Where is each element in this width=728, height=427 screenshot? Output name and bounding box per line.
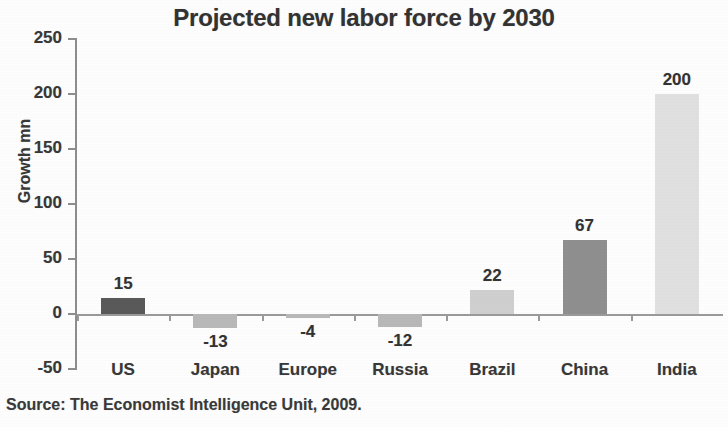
x-tick-mark — [77, 316, 79, 321]
x-tick-mark — [631, 316, 633, 321]
chart-figure: Projected new labor force by 2030 Growth… — [0, 0, 728, 427]
bar-value-label-russia: -12 — [360, 331, 440, 351]
chart-title: Projected new labor force by 2030 — [0, 4, 728, 32]
bar-japan — [193, 314, 237, 328]
y-tick-label: 100 — [2, 193, 62, 213]
bar-value-label-us: 15 — [83, 274, 163, 294]
bar-value-label-europe: -4 — [268, 322, 348, 342]
y-tick-mark — [68, 148, 77, 150]
category-label-india: India — [627, 360, 727, 380]
bar-china — [563, 240, 607, 314]
category-label-us: US — [73, 360, 173, 380]
y-tick-mark — [68, 313, 77, 315]
bar-europe — [286, 314, 330, 318]
y-tick-mark — [68, 203, 77, 205]
category-label-europe: Europe — [258, 360, 358, 380]
x-tick-mark — [169, 316, 171, 321]
bar-value-label-china: 67 — [545, 216, 625, 236]
category-label-brazil: Brazil — [442, 360, 542, 380]
x-tick-mark — [446, 316, 448, 321]
y-tick-label: 250 — [2, 28, 62, 48]
y-tick-label: 200 — [2, 83, 62, 103]
category-label-russia: Russia — [350, 360, 450, 380]
category-label-japan: Japan — [165, 360, 265, 380]
bar-us — [101, 298, 145, 315]
y-tick-mark — [68, 258, 77, 260]
y-tick-mark — [68, 38, 77, 40]
bar-value-label-india: 200 — [637, 70, 717, 90]
y-tick-label: 0 — [2, 303, 62, 323]
y-tick-label: 50 — [2, 248, 62, 268]
bar-russia — [378, 314, 422, 327]
x-tick-mark — [262, 316, 264, 321]
bar-value-label-brazil: 22 — [452, 266, 532, 286]
x-tick-mark — [354, 316, 356, 321]
bar-value-label-japan: -13 — [175, 332, 255, 352]
x-tick-mark — [538, 316, 540, 321]
category-label-china: China — [535, 360, 635, 380]
y-tick-mark — [68, 93, 77, 95]
bar-brazil — [470, 290, 514, 314]
source-note: Source: The Economist Intelligence Unit,… — [6, 396, 362, 414]
bar-india — [655, 94, 699, 314]
y-tick-label: -50 — [2, 358, 62, 378]
y-tick-label: 150 — [2, 138, 62, 158]
